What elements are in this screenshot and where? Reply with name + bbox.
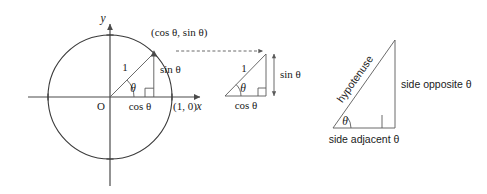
cosine-leg-label: cos θ [129, 100, 152, 112]
large-triangle-opposite-label: side opposite θ [401, 78, 472, 90]
small-triangle-opposite-label: sin θ [280, 68, 301, 80]
unit-circle-angle-label: θ [130, 82, 136, 94]
small-triangle-angle-label: θ [240, 82, 246, 94]
small-triangle-right-angle-marker [258, 88, 266, 96]
origin-label: O [97, 100, 105, 112]
y-axis-label: y [99, 12, 106, 25]
point-on-circle-label: (cos θ, sin θ) [151, 26, 208, 39]
large-triangle-group: θ hypotenuse side opposite θ side adjace… [329, 40, 472, 145]
large-triangle-angle-label: θ [342, 115, 348, 127]
radius-length-label: 1 [122, 61, 128, 73]
small-triangle-hypotenuse-label: 1 [241, 62, 247, 74]
trigonometry-figure: y x O (1, 0) (cos θ, sin θ) 1 θ cos θ si… [0, 0, 487, 194]
large-triangle-adjacent-label: side adjacent θ [329, 133, 400, 145]
small-triangle-adjacent-label: cos θ [235, 99, 258, 111]
right-angle-marker [145, 88, 154, 97]
sine-leg-label: sin θ [160, 63, 181, 75]
point-1-0-label: (1, 0) [173, 100, 197, 113]
small-triangle-group: 1 θ cos θ sin θ [225, 54, 301, 111]
large-triangle-angle-arc [347, 117, 351, 128]
unit-circle-group: y x O (1, 0) (cos θ, sin θ) 1 θ cos θ si… [28, 12, 208, 186]
